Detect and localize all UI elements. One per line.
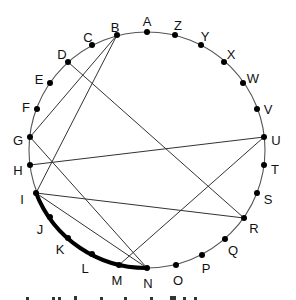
chords: [30, 35, 264, 268]
point-A: [144, 29, 150, 35]
label-I: I: [20, 192, 24, 207]
label-K: K: [56, 242, 65, 257]
point-K: [65, 235, 71, 241]
point-Q: [222, 236, 228, 242]
point-O: [173, 262, 179, 268]
label-E: E: [35, 72, 44, 87]
point-M: [116, 262, 122, 268]
circle: [29, 32, 265, 268]
point-V: [254, 106, 260, 112]
point-U: [261, 134, 267, 140]
label-M: M: [112, 273, 123, 288]
point-W: [240, 80, 246, 86]
chord-D-R: [68, 62, 244, 218]
label-J: J: [37, 222, 44, 237]
label-C: C: [83, 30, 92, 45]
label-T: T: [271, 162, 279, 177]
label-V: V: [264, 102, 273, 117]
point-N: [144, 265, 150, 271]
label-L: L: [81, 261, 88, 276]
label-N: N: [143, 276, 152, 291]
point-labels: AZYXWVUTSRQPONMLKJIHGFEDCB: [13, 14, 281, 291]
point-R: [241, 215, 247, 221]
point-G: [27, 134, 33, 140]
label-X: X: [227, 47, 236, 62]
point-L: [89, 251, 95, 257]
label-R: R: [249, 221, 258, 236]
label-P: P: [202, 261, 211, 276]
label-Y: Y: [201, 29, 210, 44]
point-S: [254, 190, 260, 196]
label-O: O: [173, 273, 183, 288]
label-D: D: [57, 47, 66, 62]
point-T: [261, 162, 267, 168]
point-E: [47, 80, 53, 86]
chord-M-U: [119, 137, 264, 265]
label-Q: Q: [228, 243, 238, 258]
label-G: G: [13, 133, 23, 148]
label-Z: Z: [174, 18, 182, 33]
chord-B-I: [36, 35, 117, 193]
point-H: [27, 162, 33, 168]
label-S: S: [264, 192, 273, 207]
bottom-caption-cutoff: [26, 296, 197, 300]
point-J: [47, 214, 53, 220]
label-H: H: [13, 163, 22, 178]
label-W: W: [247, 71, 260, 86]
label-U: U: [271, 133, 280, 148]
chord-G-N: [30, 137, 147, 268]
label-F: F: [22, 100, 30, 115]
circle-outline: [29, 32, 265, 268]
chord-H-U: [30, 137, 264, 165]
point-P: [199, 252, 205, 258]
point-I: [33, 190, 39, 196]
label-A: A: [143, 14, 152, 29]
circle-chord-diagram: AZYXWVUTSRQPONMLKJIHGFEDCB: [0, 0, 296, 300]
label-B: B: [111, 20, 120, 35]
point-F: [34, 106, 40, 112]
